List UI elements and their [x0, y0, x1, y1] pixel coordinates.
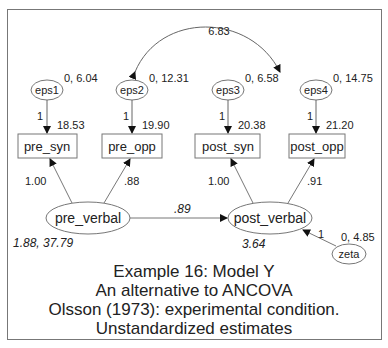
loading-post-syn: 1.00: [208, 175, 229, 187]
svg-text:post_verbal: post_verbal: [234, 210, 306, 226]
observed-post-opp: post_opp: [289, 134, 345, 158]
svg-text:pre_verbal: pre_verbal: [55, 210, 121, 226]
error-eps1: eps1 0, 6.04 1 18.53: [31, 72, 98, 133]
caption-line-4: Unstandardized estimates: [0, 319, 388, 338]
observed-post-syn: post_syn: [195, 134, 260, 158]
svg-text:zeta: zeta: [339, 248, 361, 260]
svg-text:21.20: 21.20: [326, 119, 354, 131]
svg-text:0, 12.31: 0, 12.31: [149, 72, 189, 84]
svg-text:eps3: eps3: [216, 84, 240, 96]
loading-post-opp: .91: [307, 175, 322, 187]
caption-line-1: Example 16: Model Y: [0, 262, 388, 281]
error-eps3: eps3 0, 6.58 1 20.38: [212, 72, 279, 133]
svg-text:20.38: 20.38: [238, 119, 266, 131]
svg-text:1: 1: [219, 110, 225, 122]
caption-line-2: An alternative to ANCOVA: [0, 281, 388, 300]
svg-text:1: 1: [37, 110, 43, 122]
svg-text:1: 1: [307, 110, 313, 122]
disturbance-zeta: zeta 1 0, 4.85: [303, 228, 375, 264]
error-eps4: eps4 0, 14.75 1 21.20: [300, 72, 373, 133]
svg-text:1: 1: [318, 228, 324, 240]
svg-text:0, 4.85: 0, 4.85: [341, 231, 375, 243]
svg-text:1: 1: [123, 110, 129, 122]
observed-pre-syn: pre_syn: [18, 134, 77, 158]
regression-value: .89: [174, 202, 191, 216]
svg-text:1.88, 37.79: 1.88, 37.79: [13, 236, 73, 250]
svg-text:post_syn: post_syn: [202, 139, 254, 154]
svg-text:post_opp: post_opp: [290, 139, 344, 154]
svg-text:eps1: eps1: [35, 84, 59, 96]
covariance-value: 6.83: [208, 25, 229, 37]
svg-text:3.64: 3.64: [242, 237, 266, 251]
latent-pre-verbal: pre_verbal 1.88, 37.79: [13, 202, 130, 250]
svg-text:19.90: 19.90: [142, 119, 170, 131]
loading-pre-syn: 1.00: [25, 175, 46, 187]
svg-text:eps4: eps4: [304, 84, 328, 96]
svg-text:0, 6.58: 0, 6.58: [245, 72, 279, 84]
observed-pre-opp: pre_opp: [102, 134, 162, 158]
error-eps2: eps2 0, 12.31 1 19.90: [116, 72, 189, 133]
svg-text:18.53: 18.53: [57, 119, 85, 131]
svg-text:0, 6.04: 0, 6.04: [64, 72, 98, 84]
caption-line-3: Olsson (1973): experimental condition.: [0, 300, 388, 319]
latent-post-verbal: post_verbal 3.64: [228, 202, 312, 251]
svg-text:pre_opp: pre_opp: [108, 139, 156, 154]
svg-text:0, 14.75: 0, 14.75: [333, 72, 373, 84]
svg-text:eps2: eps2: [120, 84, 144, 96]
loading-pre-opp: .88: [124, 175, 139, 187]
svg-text:pre_syn: pre_syn: [24, 139, 70, 154]
